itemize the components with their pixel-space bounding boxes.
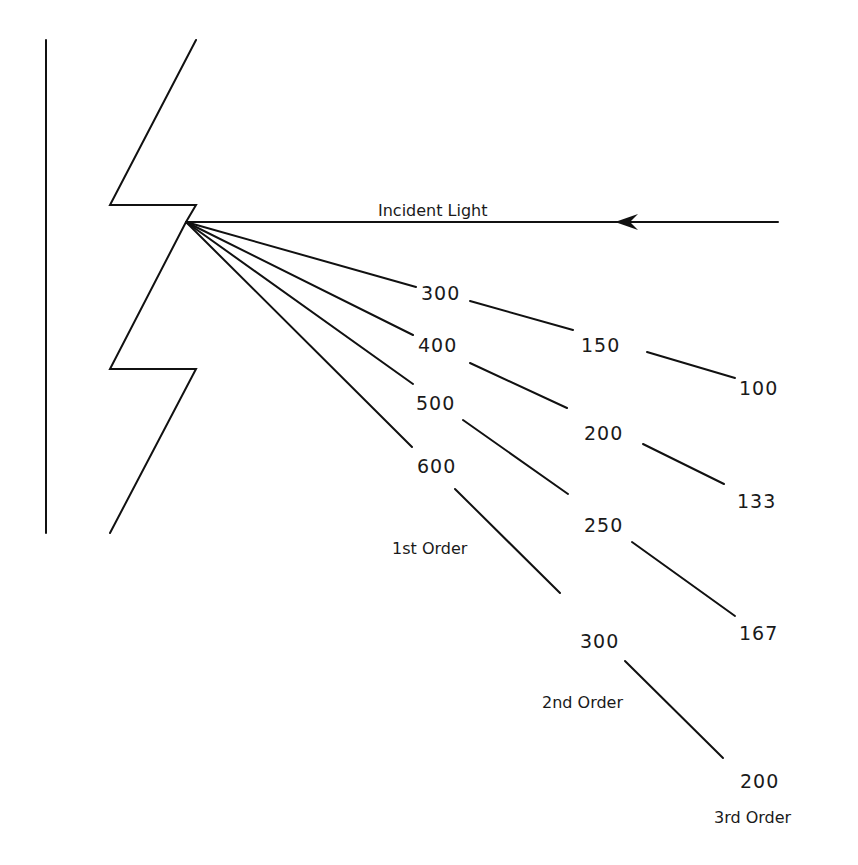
grating-sawtooth-profile xyxy=(110,40,196,533)
segment-150-100 xyxy=(647,352,735,378)
segment-600-300 xyxy=(455,489,560,593)
first-order-600: 600 xyxy=(417,455,456,477)
ray-300 xyxy=(186,222,416,287)
ray-400 xyxy=(186,222,413,335)
ray-500 xyxy=(186,222,413,384)
second-order-250: 250 xyxy=(584,514,623,536)
first-order-300: 300 xyxy=(421,282,460,304)
third-order-label: 3rd Order xyxy=(714,808,792,827)
segment-300-200 xyxy=(625,661,723,758)
first-order-label: 1st Order xyxy=(392,539,468,558)
second-order-150: 150 xyxy=(581,334,620,356)
segment-400-200 xyxy=(470,363,567,408)
third-order-100: 100 xyxy=(739,377,778,399)
segment-200-133 xyxy=(643,444,724,484)
third-order-200: 200 xyxy=(740,770,779,792)
segment-300-150 xyxy=(470,301,573,330)
segment-500-250 xyxy=(463,420,568,494)
diffraction-diagram: Incident Light 300 400 500 600 1st Order… xyxy=(0,0,858,865)
first-order-400: 400 xyxy=(418,334,457,356)
third-order-167: 167 xyxy=(739,622,778,644)
third-order-133: 133 xyxy=(737,490,776,512)
incident-light-label: Incident Light xyxy=(378,201,488,220)
second-order-200: 200 xyxy=(584,422,623,444)
second-order-label: 2nd Order xyxy=(542,693,623,712)
ray-600 xyxy=(186,222,412,447)
first-order-500: 500 xyxy=(416,392,455,414)
segment-250-167 xyxy=(632,542,735,616)
second-order-300: 300 xyxy=(580,630,619,652)
